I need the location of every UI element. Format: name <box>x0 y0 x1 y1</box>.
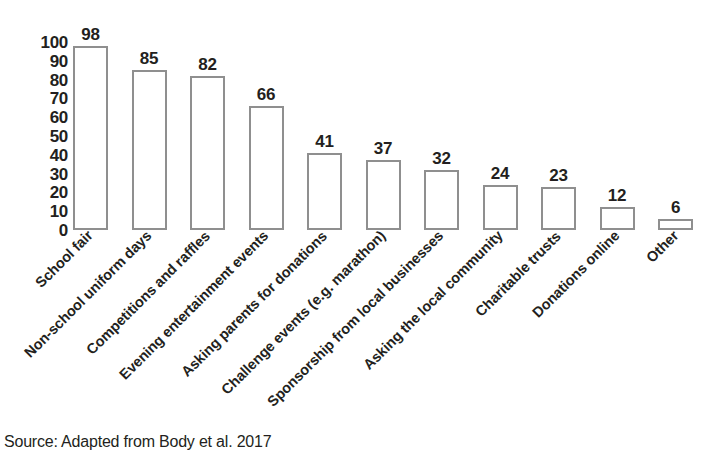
bar <box>73 46 108 230</box>
bar-value-label: 82 <box>178 56 237 73</box>
y-axis-tick-50: 50 <box>22 128 68 145</box>
bar-chart-figure: 1009080706050403020100 98858266413732242… <box>0 0 711 457</box>
y-axis-tick-90: 90 <box>22 53 68 70</box>
bar <box>366 160 401 230</box>
bar <box>249 106 284 230</box>
bar <box>483 185 518 230</box>
plot-area: 1009080706050403020100 98858266413732242… <box>0 0 711 240</box>
bar-value-label: 66 <box>237 86 296 103</box>
y-axis-tick-10: 10 <box>22 203 68 220</box>
y-axis-tick-40: 40 <box>22 147 68 164</box>
bar <box>132 70 167 230</box>
bar <box>424 170 459 230</box>
bar-value-label: 23 <box>529 167 588 184</box>
source-caption: Source: Adapted from Body et al. 2017 <box>4 433 271 451</box>
bar-value-label: 12 <box>588 187 647 204</box>
bar <box>658 219 693 230</box>
x-axis-category-labels: School fairNon-school uniform daysCompet… <box>0 232 711 422</box>
bar <box>190 76 225 230</box>
y-axis-tick-70: 70 <box>22 90 68 107</box>
bar-value-label: 98 <box>61 26 120 43</box>
y-axis-tick-60: 60 <box>22 109 68 126</box>
x-axis-label: School fair <box>33 228 95 290</box>
y-axis-tick-30: 30 <box>22 166 68 183</box>
bar-value-label: 24 <box>471 165 530 182</box>
bar <box>600 207 635 230</box>
bar-value-label: 6 <box>646 199 705 216</box>
y-axis-tick-20: 20 <box>22 184 68 201</box>
x-axis-label: Other <box>643 228 680 265</box>
bar <box>541 187 576 230</box>
bar-value-label: 85 <box>120 50 179 67</box>
bar-value-label: 41 <box>295 133 354 150</box>
bar-value-label: 37 <box>354 140 413 157</box>
bar <box>307 153 342 230</box>
bar-value-label: 32 <box>412 150 471 167</box>
y-axis-tick-80: 80 <box>22 72 68 89</box>
